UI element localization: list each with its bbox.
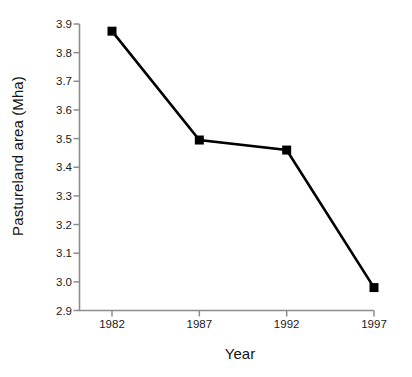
- x-axis-tick-label: 1997: [344, 318, 404, 330]
- y-axis-ticks: [74, 24, 80, 311]
- data-line-series: [112, 31, 374, 287]
- x-axis-title: Year: [90, 345, 390, 362]
- x-axis-tick-label: 1992: [257, 318, 317, 330]
- data-point-marker: [282, 146, 291, 155]
- x-axis-tick-label: 1982: [82, 318, 142, 330]
- x-axis-tick-label: 1987: [169, 318, 229, 330]
- data-point-markers: [108, 27, 379, 292]
- axis-lines: [79, 24, 374, 311]
- data-point-marker: [370, 283, 379, 292]
- data-point-marker: [108, 27, 117, 36]
- x-axis-ticks: [112, 311, 374, 317]
- x-axis-tick-labels: 1982198719921997: [0, 318, 412, 338]
- data-point-marker: [195, 136, 204, 145]
- line-chart: Pastureland area (Mha) 3.93.83.73.63.53.…: [0, 0, 412, 377]
